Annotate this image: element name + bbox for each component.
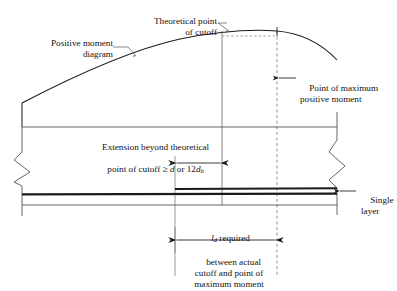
theoretical-cutoff-leader [218,23,229,33]
theoretical-cutoff-text: Theoretical pointof cutoff [154,16,217,37]
extension-requirement-label: Extension beyond theoretical point of cu… [78,131,224,187]
reinforcing-bars [22,188,337,194]
extension-line-1: Extension beyond theoretical [102,142,209,152]
ld-note-text: between actualcutoff and point ofmaximum… [194,257,264,289]
single-layer-text: Singlelayer [361,195,394,216]
greater-equal-symbol: ≥ [163,164,170,174]
ld-note-label: between actualcutoff and point ofmaximum… [176,246,282,291]
bar-diameter-subscript: b [201,167,204,174]
single-layer-label: Singlelayer [361,184,397,228]
ld-required-text: required [217,233,250,243]
theoretical-cutoff-label: Theoretical pointof cutoff [140,5,217,49]
cutoff-bar [175,188,337,189]
continuous-bar [22,194,337,195]
positive-moment-diagram-text: Positive momentdiagram [51,38,113,59]
max-moment-text: Point of maximumpositive moment [300,83,378,104]
positive-moment-diagram-label: Positive momentdiagram [20,27,113,71]
extension-or-text: or 12 [175,164,196,174]
extension-line-2-prefix: point of cutoff [107,164,162,174]
max-moment-label: Point of maximumpositive moment [300,72,396,116]
